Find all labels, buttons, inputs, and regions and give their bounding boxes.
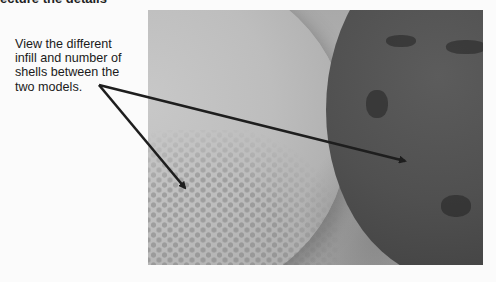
arrow-to-dark-model [99,85,405,161]
annotation-arrows [0,0,496,282]
arrow-to-light-model [99,85,185,188]
